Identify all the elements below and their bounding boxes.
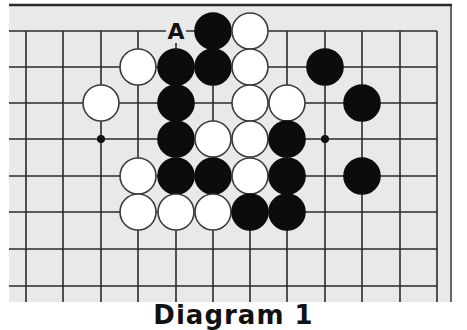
point-labels: A <box>166 19 186 44</box>
star-point <box>97 135 105 143</box>
black-stone <box>158 85 194 121</box>
white-stone <box>232 49 268 85</box>
white-stone <box>120 194 156 230</box>
star-point <box>321 135 329 143</box>
white-stone <box>158 194 194 230</box>
black-stone <box>269 121 305 157</box>
white-stone <box>269 85 305 121</box>
white-stone <box>232 85 268 121</box>
diagram-caption: Diagram 1 <box>0 300 467 330</box>
white-stone <box>232 158 268 194</box>
black-stone <box>269 194 305 230</box>
black-stone <box>195 49 231 85</box>
white-stone <box>120 158 156 194</box>
white-stone <box>83 85 119 121</box>
board-background <box>9 5 452 302</box>
black-stone <box>195 158 231 194</box>
black-stone <box>344 158 380 194</box>
point-label-a: A <box>167 19 184 44</box>
white-stone <box>195 194 231 230</box>
black-stone <box>269 158 305 194</box>
black-stone <box>158 121 194 157</box>
white-stone <box>120 49 156 85</box>
black-stone <box>158 49 194 85</box>
white-stone <box>232 13 268 49</box>
white-stone <box>232 121 268 157</box>
black-stone <box>232 194 268 230</box>
white-stone <box>195 121 231 157</box>
black-stone <box>344 85 380 121</box>
black-stone <box>307 49 343 85</box>
black-stone <box>158 158 194 194</box>
black-stone <box>195 13 231 49</box>
